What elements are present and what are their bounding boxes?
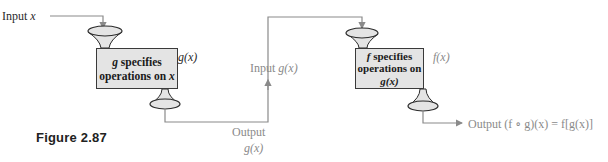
input-gx-label: Input g(x) <box>250 61 298 75</box>
input-x-label: Input x <box>2 9 36 23</box>
g-box-line1: specifies <box>118 56 162 68</box>
funnel-icon-input-g <box>88 26 122 48</box>
f-box-line2: operations on <box>358 62 422 75</box>
funnel-icon-output-f <box>408 89 438 111</box>
input-x-var: x <box>30 9 35 23</box>
final-output-label: Output (f ∘ g)(x) = f[g(x)] <box>468 117 593 131</box>
g-of-x-text: g(x) <box>178 50 197 64</box>
output-g-line1: Output <box>232 124 265 140</box>
output-g-label: Output g(x) <box>232 124 265 156</box>
final-output-text: Output (f ∘ g)(x) = f[g(x)] <box>468 117 593 131</box>
function-f-box: f specifies operations on g(x) <box>355 48 424 89</box>
f-of-x-text: f(x) <box>433 50 450 64</box>
input-x-text: Input <box>2 9 30 23</box>
g-box-line2: operations on <box>99 70 169 82</box>
f-of-x-label: f(x) <box>433 50 450 64</box>
input-gx-text: Input <box>250 61 278 75</box>
g-of-x-label: g(x) <box>178 50 197 64</box>
figure-caption: Figure 2.87 <box>36 130 107 145</box>
output-g-line2: g(x) <box>244 141 263 155</box>
g-box-var-x: x <box>169 70 175 82</box>
funnel-icon-output-g <box>150 89 180 109</box>
f-box-line1: specifies <box>370 50 412 62</box>
f-box-line3: g(x) <box>380 75 398 87</box>
final-output-connector <box>423 110 462 123</box>
funnel-icon-input-f <box>346 28 378 48</box>
input-x-connector <box>50 16 103 28</box>
input-gx-var: g(x) <box>278 61 297 75</box>
function-g-box: g specifies operations on x <box>96 48 178 89</box>
